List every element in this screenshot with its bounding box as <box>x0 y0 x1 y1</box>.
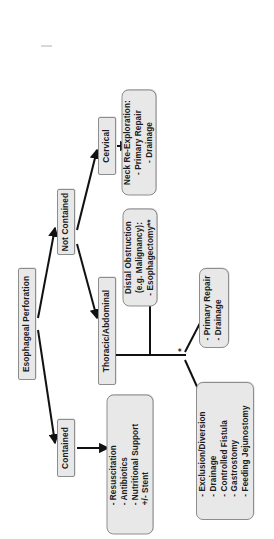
node-label: Esophageal Perforation <box>21 276 32 372</box>
node-thoracic-abdominal[interactable]: Thoracic/Abdominal <box>98 277 116 385</box>
node-contained[interactable]: Contained <box>57 419 75 477</box>
node-neck-re-exploration[interactable]: Neck Re-Exploration:- Primary Repair- Dr… <box>122 90 157 196</box>
node-not-contained[interactable]: Not Contained <box>57 189 75 255</box>
node-exclusion-diversion[interactable]: - Exclusion/Diversion- Drainage- Control… <box>196 382 254 520</box>
node-contained-management[interactable]: - Resuscitation- Antibiotics- Nutritiona… <box>107 395 154 535</box>
node-label: Cervical <box>101 129 112 162</box>
fork-asterisk-marker: * <box>176 348 186 352</box>
node-cervical[interactable]: Cervical <box>98 117 116 175</box>
node-label-multiline: Neck Re-Exploration:- Primary Repair- Dr… <box>123 100 155 185</box>
edge-notcontained-to-thoracic <box>77 244 97 318</box>
node-label-multiline: - Primary Repair- Drainage <box>203 276 225 341</box>
edge-notcontained-to-cervical <box>77 150 97 230</box>
node-label-multiline: - Exclusion/Diversion- Drainage- Control… <box>198 405 252 496</box>
node-label: Thoracic/Abdominal <box>101 290 112 372</box>
node-label-multiline: - Resuscitation- Antibiotics- Nutritiona… <box>108 424 151 506</box>
edge-root-to-contained <box>38 330 55 443</box>
flowchart-canvas: * Esophageal Perforation Not Contained C… <box>0 0 274 539</box>
node-esophageal-perforation[interactable]: Esophageal Perforation <box>18 268 36 380</box>
node-primary-repair-drainage[interactable]: - Primary Repair- Drainage <box>199 268 229 348</box>
node-label: Contained <box>60 427 71 469</box>
node-label: Not Contained <box>60 193 71 252</box>
edge-root-to-not-contained <box>38 228 55 318</box>
node-distal-obstruction[interactable]: Distal Obstruction(e.g. Malignancy):- Es… <box>123 209 158 307</box>
node-label-multiline: Distal Obstruction(e.g. Malignancy):- Es… <box>124 219 156 295</box>
